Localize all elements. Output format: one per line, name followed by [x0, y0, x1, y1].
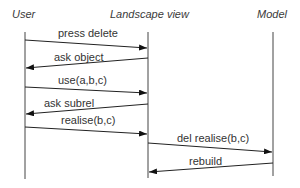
actor-user-label: User: [12, 8, 37, 20]
message-label: ask object: [54, 51, 104, 63]
message-label: press delete: [58, 27, 118, 39]
message-rebuild: rebuild: [149, 155, 273, 172]
arrow-right-icon: [25, 40, 147, 48]
message-ask-object: ask object: [26, 51, 148, 68]
sequence-diagram: User Landscape view Model press delete a…: [0, 0, 300, 188]
message-label: realise(b,c): [61, 114, 115, 126]
arrow-right-icon: [148, 143, 272, 152]
message-use: use(a,b,c): [25, 74, 147, 93]
message-ask-subrel: ask subrel: [26, 97, 148, 114]
actor-model-label: Model: [257, 8, 288, 20]
actor-landscape-view-label: Landscape view: [110, 8, 190, 20]
message-label: del realise(b,c): [177, 132, 249, 144]
message-label: rebuild: [189, 155, 222, 167]
message-label: use(a,b,c): [58, 74, 107, 86]
message-label: ask subrel: [44, 97, 94, 109]
arrow-right-icon: [25, 127, 147, 134]
arrow-right-icon: [25, 87, 147, 93]
message-press-delete: press delete: [25, 27, 147, 48]
message-del-realise: del realise(b,c): [148, 132, 272, 152]
message-realise: realise(b,c): [25, 114, 147, 134]
